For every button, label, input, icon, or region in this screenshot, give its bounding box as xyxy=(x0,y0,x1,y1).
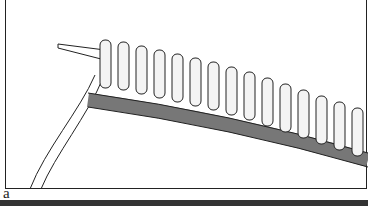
panel-label: a xyxy=(3,186,10,201)
knitting-illustration xyxy=(0,0,368,206)
page-edge xyxy=(0,200,368,206)
